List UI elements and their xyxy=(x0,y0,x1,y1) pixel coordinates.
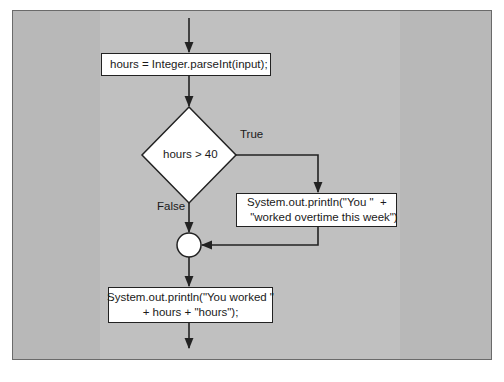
process-text-line-2: "worked overtime this week") xyxy=(247,210,396,225)
process-text: hours = Integer.parseInt(input); xyxy=(110,57,270,72)
process-text-line-1: System.out.println("You worked " xyxy=(107,290,274,305)
process-box-parse-input: hours = Integer.parseInt(input); xyxy=(101,53,271,76)
process-text-line-2: + hours + "hours"); xyxy=(143,305,239,320)
decision-condition-text: hours > 40 xyxy=(163,148,218,160)
arrow-true-branch xyxy=(236,155,318,192)
process-box-overtime-message: System.out.println("You " + "worked over… xyxy=(236,193,397,227)
true-branch-label: True xyxy=(240,128,263,140)
merge-connector xyxy=(177,233,201,257)
false-branch-label: False xyxy=(157,200,185,212)
process-box-hours-worked-message: System.out.println("You worked " + hours… xyxy=(108,287,273,323)
process-text-line-1: System.out.println("You " + xyxy=(247,195,396,210)
arrow-overtime-to-merge xyxy=(202,227,318,245)
